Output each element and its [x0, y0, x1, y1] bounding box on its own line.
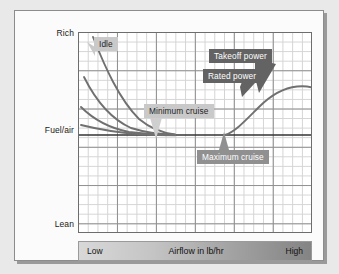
x-axis-gradient-bar: Low Airflow in lb/hr High: [78, 241, 312, 261]
idle-curve-1: [93, 37, 175, 135]
y-axis-label-rich: Rich: [33, 28, 74, 38]
y-axis-label-lean: Lean: [33, 219, 74, 229]
data-curves: [79, 33, 312, 233]
fuel-air-ratio-chart-figure: Rich Fuel/air Lean Low Airflow in lb/hr: [0, 0, 339, 274]
callout-takeoff-power: Takeoff power: [209, 49, 272, 63]
x-axis-title: Airflow in lb/hr: [79, 246, 313, 256]
callout-maximum-cruise: Maximum cruise: [197, 150, 269, 164]
callout-idle: Idle: [94, 37, 118, 51]
callout-minimum-cruise: Minimum cruise: [144, 104, 214, 118]
y-axis-label-fuelair: Fuel/air: [25, 125, 74, 135]
plot-area: [78, 32, 312, 233]
x-axis-label-high: High: [286, 246, 303, 256]
power-curve: [225, 86, 312, 135]
callout-rated-power: Rated power: [203, 69, 261, 83]
chart-panel: Rich Fuel/air Lean Low Airflow in lb/hr: [14, 10, 324, 261]
